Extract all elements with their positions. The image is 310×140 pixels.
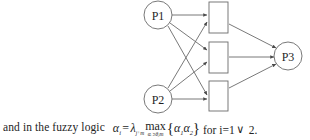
hidden-node-rect[interactable]	[209, 2, 228, 33]
hidden-node-rect[interactable]	[209, 42, 228, 73]
formula-lambda-subscript: j⁺m	[136, 130, 144, 136]
formula-equals: =	[121, 121, 131, 136]
formula-end-text: 2.	[246, 124, 258, 136]
edge-p2-h2	[170, 62, 207, 91]
formula-brace-close: }	[193, 120, 200, 137]
formula-or-symbol: ∨	[235, 123, 246, 136]
edge-p2-h1	[168, 22, 207, 88]
formula-max-operator: max αᵢ ≥θⱼm	[144, 120, 167, 138]
node-label-p2: P2	[152, 93, 165, 107]
edge-h1-p3	[229, 24, 276, 48]
hidden-node-h3[interactable]	[209, 81, 228, 111]
hidden-node-rect[interactable]	[209, 81, 228, 111]
edge-h3-p3	[229, 64, 276, 88]
input-node-p1[interactable]: P1	[144, 1, 172, 29]
formula-brace-open: {	[167, 120, 174, 137]
formula-max-subscript: αᵢ ≥θⱼm	[148, 132, 164, 138]
output-node-p3[interactable]: P3	[274, 42, 302, 70]
edge-group-inputs-to-hidden	[168, 15, 207, 99]
figure-container: P1 P2 P3 and in the fuzzy logic αi = λj⁺…	[0, 0, 310, 139]
input-node-p2[interactable]: P2	[144, 85, 172, 113]
caption-lead-text: and in the fuzzy logic	[0, 121, 105, 139]
formula-tail-text: for i=1	[200, 124, 235, 136]
node-label-p3: P3	[282, 50, 295, 64]
edge-p1-h3	[168, 26, 207, 95]
node-label-p1: P1	[152, 9, 165, 23]
network-diagram: P1 P2 P3	[0, 0, 310, 115]
caption-row: and in the fuzzy logic αi = λj⁺m max αᵢ …	[0, 112, 310, 139]
hidden-node-h1[interactable]	[209, 2, 228, 33]
hidden-node-h2[interactable]	[209, 42, 228, 73]
edge-p1-h2	[170, 23, 207, 50]
formula-max-label: max	[145, 120, 166, 132]
fuzzy-logic-formula: αi = λj⁺m max αᵢ ≥θⱼm {α1α2} for i=1 ∨ 2…	[105, 119, 258, 140]
edge-group-hidden-to-output	[229, 24, 276, 88]
